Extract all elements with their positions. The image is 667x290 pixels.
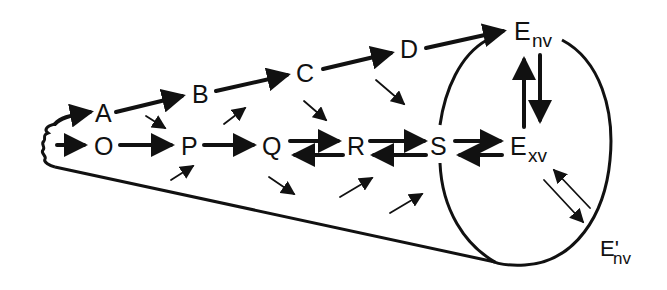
cone-base-ellipse-left-upper — [440, 40, 487, 125]
cross-arrow-below-to-r — [340, 178, 372, 197]
arrow-e-xv-to-e-prime-nv — [544, 180, 583, 222]
cross-arrow-a-to-p — [146, 116, 165, 128]
node-e-prime-nv: E' nv — [600, 236, 631, 268]
cross-arrow-q-to-below — [269, 177, 294, 194]
arrow-a-to-b — [116, 96, 182, 112]
node-b: B — [192, 80, 209, 108]
arrow-d-to-e-nv — [426, 31, 503, 48]
node-e-xv-main: E — [510, 132, 527, 160]
node-e-nv-main: E — [514, 17, 531, 45]
cross-arrow-c-to-r — [304, 101, 326, 120]
cross-arrow-d-to-s — [376, 80, 404, 104]
arrow-c-to-d — [323, 53, 391, 69]
cone-apex-wavy-edge — [42, 124, 55, 167]
cross-arrow-p-to-b — [224, 108, 245, 124]
node-e-xv-subscript: xv — [528, 145, 548, 166]
reaction-cone-diagram: A B C D O P Q R S E nv E xv E' nv — [0, 0, 667, 290]
node-e-xv: E xv — [510, 132, 548, 166]
arrow-e-prime-nv-to-e-xv — [554, 170, 590, 208]
main-arrows — [57, 31, 540, 155]
node-s: S — [430, 132, 447, 160]
cone-base-ellipse-right — [490, 40, 611, 265]
arrow-origin-to-a — [55, 112, 90, 124]
node-c: C — [296, 59, 314, 87]
cross-arrow-below-to-s — [390, 194, 422, 213]
node-labels: A B C D O P Q R S E nv E xv E' nv — [94, 17, 631, 268]
node-e-prime-nv-subscript: nv — [613, 249, 631, 268]
node-r: R — [347, 132, 365, 160]
node-p: P — [181, 132, 198, 160]
e-xv-e-prime-arrows — [544, 170, 590, 222]
cross-arrow-below-to-p — [171, 166, 193, 180]
node-q: Q — [262, 132, 281, 160]
arrow-b-to-c — [216, 75, 287, 91]
node-e-nv-subscript: nv — [532, 30, 553, 51]
node-d: D — [400, 35, 418, 63]
node-e-nv: E nv — [514, 17, 553, 51]
node-a: A — [95, 99, 112, 127]
cone-base-ellipse-left-lower — [440, 163, 495, 262]
node-o: O — [94, 132, 113, 160]
